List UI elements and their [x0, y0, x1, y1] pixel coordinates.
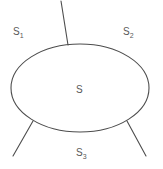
region-label-s1: S1: [13, 27, 24, 39]
region-label-s3-subscript: 3: [83, 153, 87, 160]
region-label-s2-subscript: 2: [130, 32, 134, 39]
bottom-left-segment-line: [13, 121, 33, 156]
region-label-s1-subscript: 1: [20, 32, 24, 39]
region-label-s3: S3: [76, 148, 87, 160]
region-label-s3-base: S: [76, 147, 83, 158]
region-label-s2: S2: [123, 27, 134, 39]
surface-label-s-base: S: [76, 84, 83, 95]
bottom-right-segment-line: [127, 121, 146, 156]
top-segment-line: [61, 1, 68, 45]
region-label-s1-base: S: [13, 26, 20, 37]
figure-container: S1 S2 S S3: [0, 0, 163, 169]
region-label-s2-base: S: [123, 26, 130, 37]
surface-label-s: S: [76, 85, 83, 95]
